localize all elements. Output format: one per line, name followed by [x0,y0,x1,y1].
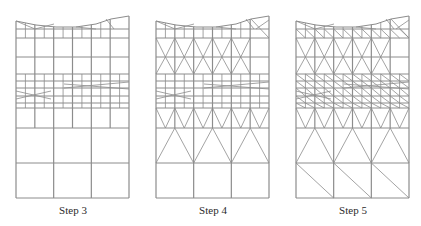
mesh-panel-step-3 [16,16,129,198]
mesh-refinement-figure [0,0,421,226]
caption-step-5: Step 5 [283,204,421,216]
mesh-panel-step-4 [156,16,269,198]
mesh-panel-step-5 [296,16,409,198]
caption-step-4: Step 4 [143,204,283,216]
caption-step-3: Step 3 [3,204,143,216]
